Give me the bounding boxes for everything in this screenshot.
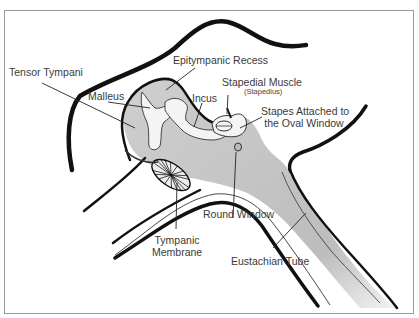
canal-line-1 (84, 158, 145, 211)
label-tympanic-line2: Membrane (152, 246, 202, 258)
label-malleus: Malleus (88, 90, 124, 102)
middle-ear-diagram (0, 0, 419, 318)
stapes-bone (212, 114, 247, 137)
label-eustachian-tube: Eustachian Tube (231, 255, 309, 267)
label-epitympanic-recess: Epitympanic Recess (173, 54, 268, 66)
label-stapes: Stapes Attached to the Oval Window (261, 105, 347, 129)
round-window (235, 143, 242, 151)
label-tympanic-membrane: Tympanic Membrane (152, 234, 202, 258)
label-round-window: Round Window (203, 208, 274, 220)
label-tensor-tympani: Tensor Tympani (9, 66, 83, 78)
label-stapedius: (Stapedius) (244, 88, 282, 96)
label-stapes-line2: the Oval Window (261, 117, 347, 129)
label-tympanic-line1: Tympanic (152, 234, 202, 246)
label-stapes-line1: Stapes Attached to (261, 105, 347, 117)
label-incus: Incus (192, 92, 217, 104)
